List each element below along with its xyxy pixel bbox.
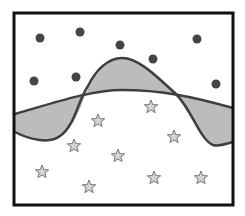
dot-icon xyxy=(149,55,158,64)
dot-icon xyxy=(212,80,221,89)
dot-icon xyxy=(30,77,39,86)
dot-icon xyxy=(36,34,45,43)
dot-icon xyxy=(116,41,125,50)
dot-icon xyxy=(72,73,81,82)
classification-diagram xyxy=(0,0,245,216)
dot-icon xyxy=(193,35,202,44)
dot-icon xyxy=(76,28,85,37)
